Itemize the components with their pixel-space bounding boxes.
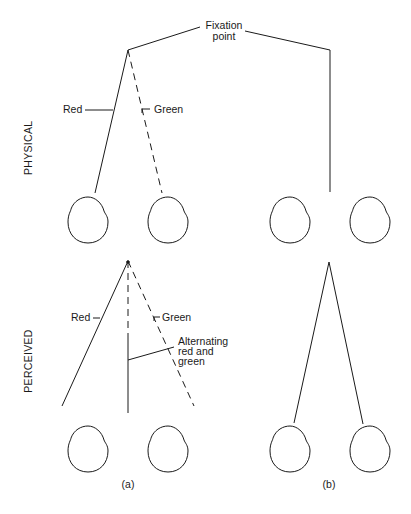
fixation-leader-right bbox=[245, 31, 330, 50]
physical-green-label: Green bbox=[154, 104, 183, 115]
perceived-b-left-ray bbox=[294, 262, 329, 423]
eye-icon bbox=[350, 197, 390, 243]
alternating-label: Alternating red and green bbox=[178, 336, 228, 366]
perceived-green-ray bbox=[128, 261, 194, 406]
eye-icon bbox=[270, 197, 310, 243]
eye-icon bbox=[148, 426, 188, 472]
eye-icon bbox=[68, 197, 108, 243]
eye-icon bbox=[270, 426, 310, 472]
diagram-lines bbox=[0, 0, 411, 514]
physical-green-ray bbox=[128, 50, 162, 193]
fixation-leader-left bbox=[128, 27, 200, 50]
perceived-red-label: Red bbox=[71, 312, 90, 323]
panel-b-caption: (b) bbox=[316, 479, 342, 490]
row-label-physical: PHYSICAL bbox=[22, 121, 34, 175]
alternating-line-3: green bbox=[178, 356, 228, 366]
binocular-rivalry-diagram: PHYSICAL PERCEIVED Fixation point Red Gr… bbox=[0, 0, 411, 514]
apex-dot bbox=[127, 261, 130, 264]
physical-red-ray bbox=[95, 50, 128, 193]
physical-red-label: Red bbox=[63, 104, 82, 115]
eye-icon bbox=[148, 197, 188, 243]
perceived-green-label: Green bbox=[162, 312, 191, 323]
panel-a-caption: (a) bbox=[115, 479, 141, 490]
fixation-point-label: Fixation point bbox=[200, 20, 248, 42]
fixation-line-2: point bbox=[200, 31, 248, 42]
eye-icon bbox=[68, 426, 108, 472]
perceived-red-ray bbox=[62, 261, 128, 406]
alternating-leader bbox=[128, 347, 174, 360]
perceived-b-right-ray bbox=[329, 262, 363, 424]
eye-icon bbox=[350, 426, 390, 472]
row-label-perceived: PERCEIVED bbox=[22, 328, 34, 394]
